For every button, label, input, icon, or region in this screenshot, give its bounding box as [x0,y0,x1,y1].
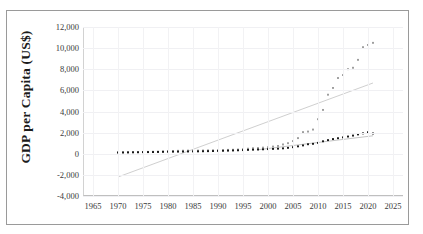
gridline-vertical [93,27,94,196]
data-point [177,151,179,153]
x-tick-label: 2000 [260,201,277,211]
y-tick-label: 8,000 [60,64,79,74]
data-point [212,150,214,152]
data-point [277,148,279,150]
x-axis-tick-labels: 1965197019751980198519901995200020052010… [83,200,403,216]
data-point [187,151,189,153]
data-point [262,148,264,150]
data-point [202,150,204,152]
data-point [162,151,164,153]
y-tick-label: -2,000 [57,170,79,180]
data-point [322,140,324,142]
data-point [347,136,349,138]
data-point [252,149,254,151]
data-point [227,150,229,152]
gridline-vertical [243,27,244,196]
data-point [297,137,299,139]
data-point [357,59,359,61]
gridline-vertical [393,27,394,196]
data-point [287,142,289,144]
y-tick-label: 6,000 [60,85,79,95]
series-black [117,131,374,153]
data-point [287,147,289,149]
y-tick-label: 12,000 [56,22,79,32]
gridline-vertical [268,27,269,196]
x-tick-label: 1970 [110,201,127,211]
y-tick-label: -4,000 [57,191,79,201]
gridline-vertical [168,27,169,196]
gridline-vertical [118,27,119,196]
x-tick-label: 1990 [210,201,227,211]
x-tick-label: 2015 [335,201,352,211]
data-point [182,151,184,153]
gridline-vertical [193,27,194,196]
x-tick-label: 2010 [310,201,327,211]
data-point [312,129,314,131]
gridline-vertical [143,27,144,196]
gridline-vertical [218,27,219,196]
data-point [247,149,249,151]
x-tick-label: 1995 [235,201,252,211]
gridline-horizontal [83,196,403,197]
x-tick-label: 2025 [385,201,402,211]
chart-frame: GDP per Capita (US$) 12,00010,0008,0006,… [6,10,409,225]
series-gray [117,42,374,154]
gridline-vertical [343,27,344,196]
y-tick-label: 4,000 [60,107,79,117]
data-point [157,151,159,153]
y-tick-label: 10,000 [56,43,79,53]
trendline-black [258,136,373,150]
x-tick-label: 1975 [135,201,152,211]
trendline-gray [118,83,373,177]
x-tick-label: 2005 [285,201,302,211]
data-point [197,150,199,152]
data-point [357,133,359,135]
x-tick-label: 1980 [160,201,177,211]
data-point [327,139,329,141]
data-point [302,144,304,146]
data-point [172,151,174,153]
x-tick-label: 2020 [360,201,377,211]
data-point [337,137,339,139]
y-tick-label: 2,000 [60,128,79,138]
y-tick-label: 0 [75,149,79,159]
data-point [332,138,334,140]
data-point [312,143,314,145]
data-point [332,87,334,89]
data-point [307,143,309,145]
gridline-vertical [318,27,319,196]
plot-area [83,27,403,196]
y-axis-tick-labels: 12,00010,0008,0006,0004,0002,0000-2,000-… [7,27,79,196]
data-point [272,148,274,150]
clipped-header-band [0,0,423,9]
data-point [232,150,234,152]
data-point [352,135,354,137]
x-tick-label: 1985 [185,201,202,211]
data-point [237,149,239,151]
data-point [297,145,299,147]
data-point [257,149,259,151]
data-point [372,42,374,44]
data-point [207,150,209,152]
data-point [272,146,274,148]
data-point [152,151,154,153]
gridline-vertical [293,27,294,196]
x-tick-label: 1965 [85,201,102,211]
data-point [262,147,264,149]
data-point [282,147,284,149]
figure-container: GDP per Capita (US$) 12,00010,0008,0006,… [0,0,423,234]
data-point [327,94,329,96]
gridline-vertical [368,27,369,196]
data-point [282,144,284,146]
data-point [222,150,224,152]
data-point [277,145,279,147]
data-point [337,77,339,79]
